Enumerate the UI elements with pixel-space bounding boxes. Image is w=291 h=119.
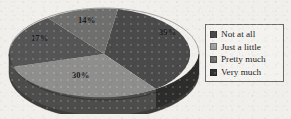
pie-data-label-very-much: 14% [78, 15, 95, 25]
legend-item-not-at-all[interactable]: Not at all [210, 28, 280, 41]
pie-chart: 14% 17% 30% 39% [6, 2, 202, 114]
legend-label-just-a-little: Just a little [221, 42, 261, 52]
legend-swatch-just-a-little [210, 43, 217, 50]
pie-data-label-just-a-little: 30% [72, 70, 89, 80]
legend-swatch-very-much [210, 69, 217, 76]
legend-item-pretty-much[interactable]: Pretty much [210, 53, 280, 66]
pie-data-label-pretty-much: 17% [31, 33, 48, 43]
chart-legend: Not at all Just a little Pretty much Ver… [205, 24, 284, 82]
legend-label-pretty-much: Pretty much [221, 54, 266, 64]
pie-chart-screenshot: 14% 17% 30% 39% Not at all Just a little… [0, 0, 291, 119]
legend-item-very-much[interactable]: Very much [210, 66, 280, 79]
legend-swatch-not-at-all [210, 31, 217, 38]
legend-label-not-at-all: Not at all [221, 29, 255, 39]
legend-item-just-a-little[interactable]: Just a little [210, 41, 280, 54]
pie-data-label-not-at-all: 39% [159, 27, 176, 37]
legend-label-very-much: Very much [221, 67, 261, 77]
pie-chart-svg [6, 2, 202, 114]
legend-swatch-pretty-much [210, 56, 217, 63]
